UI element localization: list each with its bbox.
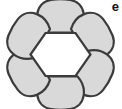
figure-panel: e bbox=[0, 0, 122, 109]
hexagonal-rosette-diagram bbox=[0, 0, 122, 109]
panel-label: e bbox=[112, 0, 119, 15]
